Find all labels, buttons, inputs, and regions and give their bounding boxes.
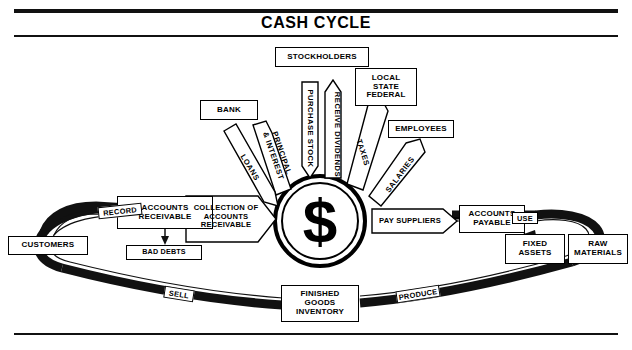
flow-collection-of-accounts-receivable[interactable]: COLLECTION OF ACCOUNTS RECEIVABLE [188, 199, 264, 235]
purchase-stock-label: PURCHASE STOCK [306, 89, 315, 167]
pay-suppliers-label: PAY SUPPLIERS [379, 217, 441, 226]
sell-label: SELL [168, 288, 189, 300]
node-customers[interactable]: CUSTOMERS [8, 236, 88, 255]
bad-debts-arrow [161, 229, 169, 245]
ar-label-line2: RECEIVABLE [139, 213, 192, 222]
flow-use[interactable]: USE [512, 212, 538, 224]
ap-label-line2: PAYABLE [473, 219, 511, 228]
node-raw-materials[interactable]: RAW MATERIALS [568, 234, 628, 264]
node-employees[interactable]: EMPLOYEES [388, 120, 454, 138]
cash-cycle-diagram: CASH CYCLE .ln{fill:none;stroke:#000;str… [0, 0, 632, 350]
taxes-arrow [347, 98, 388, 190]
flow-receive-dividends[interactable]: RECEIVE DIVIDENDS [333, 85, 342, 185]
node-fixed-assets[interactable]: FIXED ASSETS [505, 234, 565, 264]
fgi-label-line3: INVENTORY [296, 308, 344, 317]
node-bad-debts[interactable]: BAD DEBTS [126, 245, 202, 260]
node-customers-label: CUSTOMERS [22, 241, 75, 250]
node-bank-label: BANK [217, 106, 241, 115]
raw-materials-label-line2: MATERIALS [574, 249, 622, 258]
collection-label-line3: RECEIVABLE [201, 221, 251, 230]
bad-debts-label: BAD DEBTS [142, 248, 186, 256]
node-employees-label: EMPLOYEES [395, 125, 447, 134]
node-bank[interactable]: BANK [200, 100, 258, 120]
node-stockholders[interactable]: STOCKHOLDERS [275, 47, 369, 67]
receive-dividends-label: RECEIVE DIVIDENDS [333, 92, 342, 177]
record-label: RECORD [103, 205, 138, 217]
node-finished-goods-inventory[interactable]: FINISHED GOODS INVENTORY [281, 285, 359, 322]
government-label-federal: FEDERAL [366, 91, 405, 100]
flow-pay-suppliers[interactable]: PAY SUPPLIERS [375, 212, 445, 230]
use-label: USE [517, 214, 533, 223]
node-stockholders-label: STOCKHOLDERS [287, 53, 356, 62]
node-government[interactable]: LOCAL STATE FEDERAL [355, 68, 417, 106]
fixed-assets-label-line2: ASSETS [518, 249, 551, 258]
flow-purchase-stock[interactable]: PURCHASE STOCK [306, 83, 315, 175]
